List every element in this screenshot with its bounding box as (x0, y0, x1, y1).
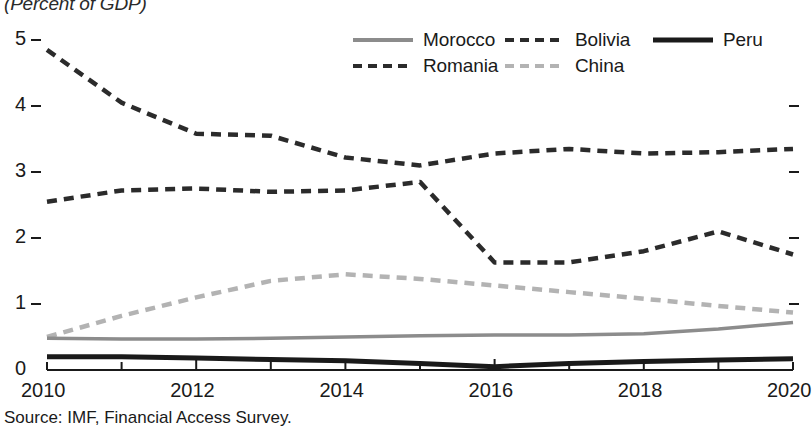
series-line-peru (47, 357, 793, 367)
series-line-romania (47, 50, 793, 165)
source-note: Source: IMF, Financial Access Survey. (4, 408, 292, 428)
series-line-bolivia (47, 182, 793, 263)
series-line-morocco (47, 322, 793, 339)
series-line-china (47, 274, 793, 337)
